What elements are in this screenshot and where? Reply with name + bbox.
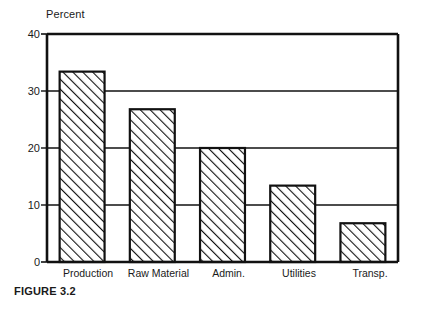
x-tick-label-admin: Admin. (196, 267, 261, 279)
figure-container: Percent 40 30 20 10 0 (0, 0, 425, 309)
x-tick-label-transp: Transp. (334, 267, 406, 279)
bar-raw-material[interactable] (130, 109, 175, 262)
bar-admin[interactable] (200, 148, 245, 262)
x-tick-label-utilities: Utilities (263, 267, 335, 279)
bar-transp[interactable] (340, 223, 385, 262)
x-tick-label-raw-material: Raw Material (120, 267, 197, 279)
bar-utilities[interactable] (270, 186, 315, 262)
bar-production[interactable] (60, 72, 105, 262)
plot-svg (0, 0, 425, 309)
figure-caption: FIGURE 3.2 (14, 285, 76, 298)
chart-canvas: Percent 40 30 20 10 0 (0, 0, 425, 309)
x-tick-label-production: Production (53, 267, 123, 279)
